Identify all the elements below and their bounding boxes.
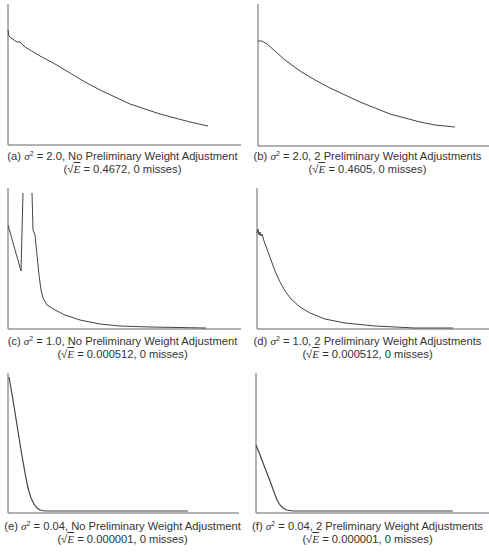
panel-b: (b) σ2 = 2.0, 2 Preliminary Weight Adjus… (245, 0, 489, 184)
caption-line1: (e) σ2 = 0.04, No Preliminary Weight Adj… (0, 520, 245, 533)
plot-c (0, 185, 245, 335)
caption-line1: (c) σ2 = 1.0, No Preliminary Weight Adju… (0, 335, 245, 348)
caption-line1: (f) σ2 = 0.04, 2 Preliminary Weight Adju… (245, 520, 489, 533)
caption-line1: (b) σ2 = 2.0, 2 Preliminary Weight Adjus… (245, 150, 489, 163)
caption-b: (b) σ2 = 2.0, 2 Preliminary Weight Adjus… (245, 150, 489, 176)
caption-line2: (√E = 0.4672, 0 misses) (0, 163, 245, 176)
panel-f: (f) σ2 = 0.04, 2 Preliminary Weight Adju… (245, 370, 489, 553)
error-curve (8, 193, 206, 328)
caption-line1: (a) σ2 = 2.0, No Preliminary Weight Adju… (0, 150, 245, 163)
caption-d: (d) σ2 = 1.0, 2 Preliminary Weight Adjus… (245, 335, 489, 361)
error-curve (8, 30, 208, 126)
plot-d (245, 185, 489, 335)
caption-line2: (√E = 0.000001, 0 misses) (245, 533, 489, 546)
caption-line2: (√E = 0.000512, 0 misses) (0, 348, 245, 361)
error-curve (257, 229, 453, 328)
caption-e: (e) σ2 = 0.04, No Preliminary Weight Adj… (0, 520, 245, 546)
error-curve (258, 41, 455, 127)
caption-f: (f) σ2 = 0.04, 2 Preliminary Weight Adju… (245, 520, 489, 546)
caption-a: (a) σ2 = 2.0, No Preliminary Weight Adju… (0, 150, 245, 176)
plot-b (245, 0, 489, 150)
error-curve (256, 445, 453, 511)
caption-c: (c) σ2 = 1.0, No Preliminary Weight Adju… (0, 335, 245, 361)
caption-line1: (d) σ2 = 1.0, 2 Preliminary Weight Adjus… (245, 335, 489, 348)
caption-line2: (√E = 0.000001, 0 misses) (0, 533, 245, 546)
plot-a (0, 0, 245, 150)
plot-e (0, 370, 245, 520)
plot-f (245, 370, 489, 520)
error-curve (9, 377, 188, 511)
panel-c: (c) σ2 = 1.0, No Preliminary Weight Adju… (0, 185, 245, 369)
caption-line2: (√E = 0.4605, 0 misses) (245, 163, 489, 176)
panel-e: (e) σ2 = 0.04, No Preliminary Weight Adj… (0, 370, 245, 553)
panel-d: (d) σ2 = 1.0, 2 Preliminary Weight Adjus… (245, 185, 489, 369)
panel-a: (a) σ2 = 2.0, No Preliminary Weight Adju… (0, 0, 245, 184)
caption-line2: (√E = 0.000512, 0 misses) (245, 348, 489, 361)
